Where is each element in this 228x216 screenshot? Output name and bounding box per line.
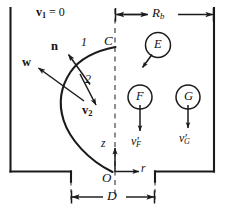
vg-subscript: G [184, 137, 190, 146]
bubble-G-label: G [184, 90, 193, 103]
bubble-E-label: E [154, 38, 162, 51]
bubble-F-label: F [136, 90, 144, 103]
rb-dimension-label: Rb [152, 6, 164, 21]
diagram-canvas [0, 0, 228, 216]
velocity-G-label: v′G [179, 132, 190, 146]
r-axis-label: r [141, 163, 145, 175]
rb-base: R [152, 5, 160, 20]
w-vector-label: w [22, 56, 31, 69]
normal-vector-label: n [51, 40, 58, 53]
velocity-F-label: v′F [131, 135, 141, 149]
v1-zero-label: v1 = 0 [36, 6, 65, 20]
region-2-label: 2 [85, 73, 91, 85]
v2-subscript: 2 [88, 108, 92, 118]
point-C-label: C [104, 34, 113, 47]
rb-subscript: b [160, 11, 164, 21]
vf-subscript: F [136, 140, 141, 149]
d-dimension-label: D [107, 189, 117, 203]
region-1-label: 1 [81, 36, 87, 48]
v2-vector-label: v2 [82, 104, 93, 118]
z-axis-label: z [101, 138, 105, 150]
rb-dimension-line [116, 8, 214, 22]
coordinate-axes [115, 148, 139, 172]
point-O-label: O [102, 171, 111, 184]
schematic-figure: v1 = 0 n w 1 2 v2 C O z r Rb D E F G v′F… [0, 0, 228, 216]
v1-equals-zero: = 0 [46, 5, 65, 19]
